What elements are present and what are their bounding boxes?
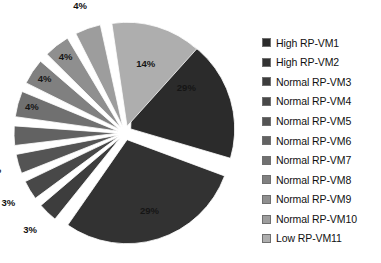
legend-item[interactable]: Low RP-VM11 xyxy=(262,229,381,249)
legend-swatch-icon xyxy=(262,175,271,184)
legend-item[interactable]: Normal RP-VM6 xyxy=(262,131,381,151)
legend-item-label: Normal RP-VM7 xyxy=(276,155,351,166)
legend-item-label: Normal RP-VM10 xyxy=(276,214,357,225)
legend-item[interactable]: Normal RP-VM3 xyxy=(262,72,381,92)
legend-item-label: Normal RP-VM5 xyxy=(276,116,351,127)
legend-swatch-icon xyxy=(262,195,271,204)
pie-slice-value-label: 14% xyxy=(136,58,156,69)
legend-item[interactable]: High RP-VM1 xyxy=(262,33,381,53)
pie-plot-area: 29%29%3%3%3%3%4%4%4%4%14% xyxy=(0,0,248,263)
legend-swatch-icon xyxy=(262,97,271,106)
legend-item-label: Normal RP-VM4 xyxy=(276,96,351,107)
pie-slice-value-label: 3% xyxy=(0,164,2,175)
legend-item[interactable]: High RP-VM2 xyxy=(262,53,381,73)
pie-svg: 29%29%3%3%3%3%4%4%4%4%14% xyxy=(0,0,248,263)
pie-slice-value-label: 4% xyxy=(38,73,52,84)
legend-swatch-icon xyxy=(262,117,271,126)
pie-slice-value-label: 4% xyxy=(73,0,87,11)
legend-item[interactable]: Normal RP-VM8 xyxy=(262,170,381,190)
legend-item[interactable]: Normal RP-VM7 xyxy=(262,151,381,171)
legend-item[interactable]: Normal RP-VM9 xyxy=(262,190,381,210)
pie-slice-value-label: 4% xyxy=(25,101,39,112)
legend-item-label: Normal RP-VM6 xyxy=(276,136,351,147)
pie-slice-value-label: 3% xyxy=(23,224,37,235)
pie-slices-group xyxy=(14,22,235,243)
legend-item[interactable]: Normal RP-VM5 xyxy=(262,111,381,131)
legend-swatch-icon xyxy=(262,38,271,47)
legend-swatch-icon xyxy=(262,77,271,86)
pie-slice-value-label: 29% xyxy=(177,82,197,93)
legend-item-label: Normal RP-VM8 xyxy=(276,175,351,186)
legend-swatch-icon xyxy=(262,215,271,224)
legend-swatch-icon xyxy=(262,136,271,145)
legend-swatch-icon xyxy=(262,156,271,165)
legend-item-label: Normal RP-VM3 xyxy=(276,77,351,88)
legend-swatch-icon xyxy=(262,234,271,243)
chart-legend: High RP-VM1High RP-VM2Normal RP-VM3Norma… xyxy=(262,33,381,249)
legend-item-label: High RP-VM1 xyxy=(276,38,339,49)
pie-chart-figure: 29%29%3%3%3%3%4%4%4%4%14% High RP-VM1Hig… xyxy=(0,0,381,263)
pie-slice-value-label: 4% xyxy=(59,51,73,62)
legend-item-label: Normal RP-VM9 xyxy=(276,194,351,205)
legend-item[interactable]: Normal RP-VM4 xyxy=(262,92,381,112)
legend-swatch-icon xyxy=(262,58,271,67)
pie-slice-value-label: 3% xyxy=(2,197,16,208)
legend-item-label: High RP-VM2 xyxy=(276,57,339,68)
pie-slice-value-label: 29% xyxy=(140,205,160,216)
legend-item-label: Low RP-VM11 xyxy=(276,233,342,244)
legend-item[interactable]: Normal RP-VM10 xyxy=(262,209,381,229)
